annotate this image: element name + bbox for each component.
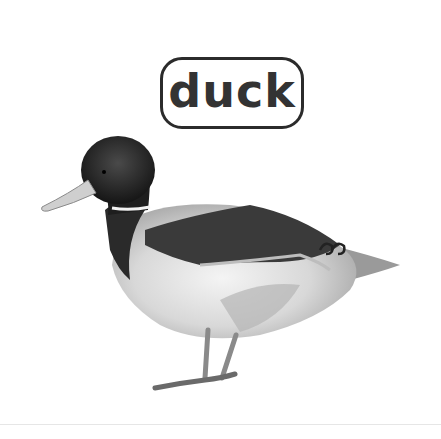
ground-line [0,424,441,425]
duck-illustration [0,0,441,439]
